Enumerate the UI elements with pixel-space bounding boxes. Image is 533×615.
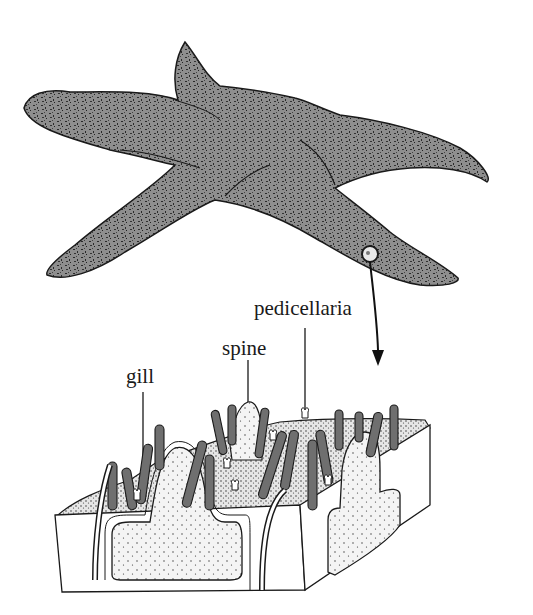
- pedicellaria-label: pedicellaria: [254, 298, 352, 319]
- starfish-diagram: pedicellaria spine gill: [0, 0, 533, 615]
- gill: [155, 425, 164, 470]
- pedicellaria: [133, 489, 140, 500]
- spine-label: spine: [222, 338, 266, 359]
- starfish-body: [24, 42, 488, 286]
- pedicellaria: [301, 408, 308, 418]
- gill: [335, 410, 343, 450]
- gill: [228, 405, 236, 445]
- magnified-spot: [362, 246, 378, 262]
- pedicellaria: [324, 475, 331, 485]
- pedicellaria: [231, 480, 238, 490]
- gill-label: gill: [126, 366, 154, 387]
- pedicellaria: [269, 430, 276, 440]
- cross-section-block: [55, 402, 430, 592]
- gill: [390, 405, 398, 450]
- pedicellaria: [223, 458, 230, 468]
- gill: [308, 440, 317, 510]
- gill: [355, 412, 363, 442]
- magnify-arrow: [370, 262, 384, 366]
- gill: [205, 455, 214, 510]
- starfish-outline: [24, 42, 488, 286]
